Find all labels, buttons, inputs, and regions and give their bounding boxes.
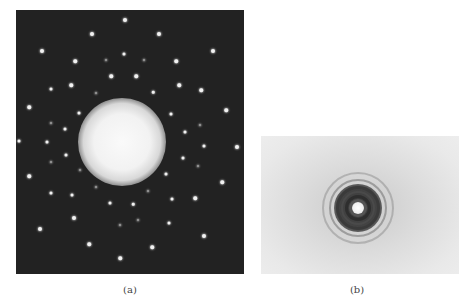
diffraction-spot xyxy=(65,154,68,157)
diffraction-spot xyxy=(40,49,44,53)
diffraction-ring-pattern-image xyxy=(261,136,459,274)
diffraction-spot xyxy=(64,128,67,131)
diffraction-spot xyxy=(137,219,139,221)
diffraction-spot xyxy=(174,59,178,63)
diffraction-spot xyxy=(27,105,31,109)
diffraction-spot xyxy=(50,88,53,91)
diffraction-spot xyxy=(123,53,126,56)
diffraction-spot xyxy=(69,83,73,87)
diffraction-spot xyxy=(177,83,181,87)
diffraction-spot xyxy=(202,234,206,238)
diffraction-spot xyxy=(38,227,42,231)
diffraction-spot xyxy=(199,88,203,92)
diffraction-spot xyxy=(197,165,199,167)
center-spot xyxy=(352,202,364,214)
diffraction-spot xyxy=(73,59,77,63)
diffraction-spot xyxy=(134,74,138,78)
diffraction-spot-pattern-image xyxy=(16,10,244,274)
diffraction-spot xyxy=(171,198,174,201)
diffraction-spot xyxy=(147,190,149,192)
diffraction-spot xyxy=(95,186,97,188)
diffraction-spot xyxy=(123,18,127,22)
diffraction-spot xyxy=(90,32,94,36)
diffraction-spot xyxy=(109,202,112,205)
central-beam-glow xyxy=(78,98,166,186)
diffraction-spot xyxy=(165,173,168,176)
diffraction-spot xyxy=(199,124,201,126)
diffraction-spot xyxy=(220,180,224,184)
diffraction-spot xyxy=(50,161,52,163)
diffraction-spot xyxy=(118,256,122,260)
diffraction-spot xyxy=(71,194,74,197)
diffraction-spot xyxy=(27,174,31,178)
diffraction-spot xyxy=(87,242,91,246)
diffraction-spot xyxy=(182,157,185,160)
diffraction-spot xyxy=(193,196,197,200)
diffraction-spot xyxy=(224,108,228,112)
diffraction-spot xyxy=(184,131,187,134)
diffraction-spot xyxy=(105,59,107,61)
diffraction-spot xyxy=(150,245,154,249)
diffraction-spot xyxy=(95,92,97,94)
diffraction-spot xyxy=(203,145,206,148)
diffraction-spot xyxy=(157,32,161,36)
diffraction-spot xyxy=(119,224,121,226)
diffraction-spot xyxy=(79,169,81,171)
diffraction-spot xyxy=(168,222,171,225)
diffraction-spot xyxy=(18,140,21,143)
caption-a: (a) xyxy=(123,284,137,295)
caption-b: (b) xyxy=(350,284,364,295)
diffraction-spot xyxy=(72,216,76,220)
diffraction-spot xyxy=(211,49,215,53)
diffraction-spot xyxy=(152,91,155,94)
diffraction-spot xyxy=(143,59,145,61)
diffraction-spot xyxy=(170,113,173,116)
diffraction-spot xyxy=(235,145,239,149)
diffraction-spot xyxy=(109,74,113,78)
diffraction-spot xyxy=(132,203,135,206)
diffraction-spot xyxy=(78,112,81,115)
diffraction-spot xyxy=(46,141,49,144)
diffraction-spot xyxy=(50,192,53,195)
diffraction-spot xyxy=(50,122,52,124)
